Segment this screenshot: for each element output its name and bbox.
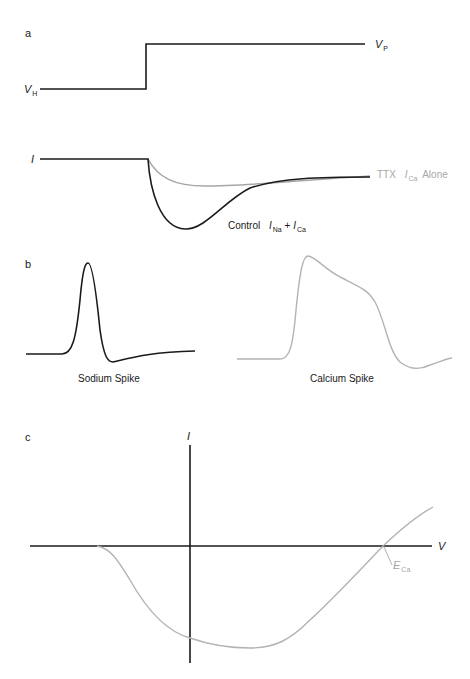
control-sub1: Na [273,226,282,233]
control-ina-ica-trace [40,159,370,229]
sodium-spike-trace [26,263,195,362]
ttx-prefix: TTX [377,169,396,180]
ttx-ica-label: TTX ICa Alone [377,170,448,180]
control-i2: I [293,220,296,231]
figure-canvas [0,0,470,679]
panel-c-letter: c [25,431,31,443]
ica-iv-curve [97,507,433,648]
vh-sub: H [32,90,37,97]
control-i1: I [269,220,272,231]
vp-v: V [375,38,382,50]
voltage-step-trace [40,44,365,89]
panel-b-letter: b [25,258,31,270]
vp-label: VP [375,39,388,50]
calcium-spike-trace [237,256,452,368]
current-axis-label: I [31,154,34,165]
sodium-spike-label: Sodium Spike [78,374,140,384]
control-plus: + [285,220,291,231]
eca-pointer-line [384,547,392,565]
control-prefix: Control [228,220,260,231]
eca-sub: Ca [401,566,410,573]
ttx-sub: Ca [408,175,417,182]
vh-label: VH [24,84,37,95]
vh-v: V [24,83,31,95]
vp-sub: P [383,45,388,52]
iv-v-axis-label: V [438,541,445,552]
ttx-suffix: Alone [422,169,448,180]
ttx-ica-trace [148,159,370,186]
eca-e: E [393,559,400,571]
calcium-spike-label: Calcium Spike [310,374,374,384]
control-sub2: Ca [297,226,306,233]
control-label: Control INa + ICa [228,221,306,231]
panel-a-letter: a [25,27,31,39]
eca-label: ECa [393,560,410,571]
iv-i-axis-label: I [187,431,190,442]
